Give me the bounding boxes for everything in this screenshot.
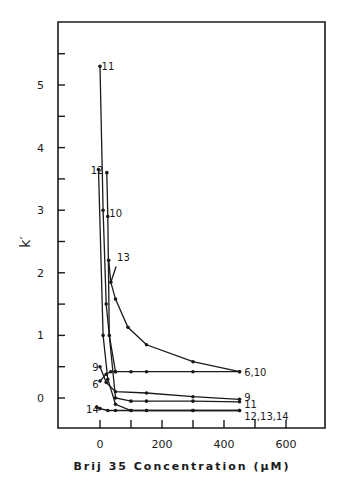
- data-point: [114, 370, 118, 374]
- x-tick-label: 0: [97, 438, 104, 451]
- y-tick-label: 2: [37, 267, 44, 280]
- series-9: [98, 365, 241, 401]
- data-point: [145, 343, 149, 347]
- data-point: [129, 370, 133, 374]
- data-point: [191, 360, 195, 364]
- data-point: [114, 390, 118, 394]
- data-point: [106, 377, 110, 381]
- data-point: [114, 297, 118, 301]
- series-label: 12: [91, 165, 104, 176]
- y-tick-label: 5: [37, 79, 44, 92]
- y-tick-label: 3: [37, 204, 44, 217]
- series-layer: [95, 64, 241, 412]
- series-label: 9: [92, 362, 98, 373]
- x-axis-label: Brij 35 Concentration (μM): [73, 460, 290, 473]
- data-point: [108, 334, 112, 338]
- data-point: [104, 302, 108, 306]
- data-point: [104, 372, 108, 376]
- series-line-11: [100, 66, 240, 402]
- y-axis-label: k′: [17, 236, 33, 247]
- series-label: 12,13,14: [244, 411, 289, 422]
- x-tick-label: 200: [152, 438, 173, 451]
- series-label: 10: [109, 208, 122, 219]
- series-12: [97, 168, 242, 413]
- data-point: [109, 370, 113, 374]
- data-point: [105, 171, 109, 175]
- y-tick-label: 1: [37, 329, 44, 342]
- data-point: [191, 399, 195, 403]
- series-label: 11: [244, 399, 257, 410]
- chart: 0123450200400600 1112101396146,1091112,1…: [0, 0, 339, 485]
- data-point: [191, 409, 195, 413]
- data-point: [98, 379, 102, 383]
- data-point: [114, 402, 118, 406]
- y-tick-label: 0: [37, 392, 44, 405]
- data-point: [106, 409, 110, 413]
- series-label: 11: [102, 61, 115, 72]
- series-label: 6: [92, 379, 98, 390]
- series-line-10: [107, 173, 240, 372]
- data-point: [129, 409, 133, 413]
- data-point: [129, 399, 133, 403]
- series-label: 13: [117, 252, 130, 263]
- series-label: 14: [86, 404, 99, 415]
- series-10: [105, 171, 241, 374]
- data-point: [101, 208, 105, 212]
- x-tick-label: 400: [214, 438, 235, 451]
- series-13: [107, 258, 241, 373]
- data-point: [145, 370, 149, 374]
- series-14: [95, 406, 241, 413]
- data-point: [104, 381, 108, 385]
- data-point: [238, 397, 242, 401]
- series-line-13: [109, 260, 240, 371]
- label-pointer: [111, 267, 116, 283]
- annotation-layer: 1112101396146,1091112,13,14: [86, 61, 289, 421]
- series-line-12: [99, 170, 240, 411]
- data-point: [145, 391, 149, 395]
- data-point: [101, 334, 105, 338]
- data-point: [238, 370, 242, 374]
- axes: 0123450200400600: [37, 22, 325, 451]
- data-point: [107, 258, 111, 262]
- series-line-14: [97, 407, 240, 410]
- x-tick-label: 600: [276, 438, 297, 451]
- data-point: [145, 399, 149, 403]
- y-tick-label: 4: [37, 142, 44, 155]
- data-point: [126, 325, 130, 329]
- data-point: [98, 365, 102, 369]
- data-point: [191, 395, 195, 399]
- data-point: [145, 409, 149, 413]
- data-point: [114, 409, 118, 413]
- series-label: 6,10: [244, 367, 266, 378]
- data-point: [238, 409, 242, 413]
- data-point: [191, 370, 195, 374]
